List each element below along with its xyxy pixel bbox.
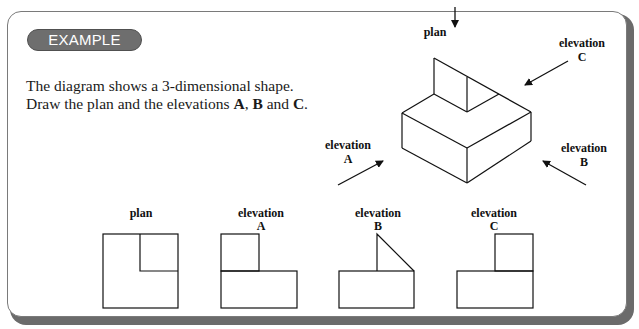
diagram-canvas: plan elevation C elevation A elevation B… — [0, 0, 639, 329]
view-elevation-a-letter: A — [257, 219, 266, 233]
view-elevation-c-label: elevation — [471, 206, 517, 220]
elevation-a-view — [221, 234, 297, 308]
elevation-c-view — [457, 234, 533, 308]
elevation-c-top — [495, 234, 533, 271]
elevation-c-arrow — [525, 61, 568, 85]
elevation-a-top — [221, 234, 259, 271]
isometric-shape — [402, 58, 531, 183]
view-elevation-b-label: elevation — [355, 206, 401, 220]
base-top-front-right-edge — [467, 112, 531, 148]
iso-elevation-b-label: elevation — [561, 141, 607, 155]
plan-view — [103, 234, 178, 308]
base-bottom-left-edge — [402, 148, 467, 183]
elevation-b-base — [339, 271, 414, 308]
elevation-b-triangle — [377, 234, 414, 271]
elevation-a-base — [221, 271, 297, 308]
elevation-b-view — [339, 234, 414, 308]
view-elevation-c-letter: C — [490, 219, 499, 233]
base-top-left-edge — [402, 94, 434, 113]
base-top-front-left-edge — [402, 113, 467, 148]
iso-elevation-c-label: elevation — [559, 36, 605, 50]
elevation-c-base — [457, 271, 533, 308]
view-plan-label: plan — [130, 206, 153, 220]
view-elevation-b-letter: B — [374, 219, 382, 233]
iso-plan-label: plan — [424, 25, 447, 39]
base-bottom-right-edge — [467, 141, 531, 183]
iso-elevation-a-label: elevation — [325, 138, 371, 152]
wedge-inner-bottom-edge — [434, 94, 467, 112]
iso-elevation-b-letter: B — [580, 155, 588, 169]
iso-elevation-a-letter: A — [344, 152, 353, 166]
wedge-right-edge — [467, 94, 499, 112]
view-elevation-a-label: elevation — [238, 206, 284, 220]
plan-inner-lines — [140, 234, 178, 271]
iso-elevation-c-letter: C — [578, 50, 587, 64]
